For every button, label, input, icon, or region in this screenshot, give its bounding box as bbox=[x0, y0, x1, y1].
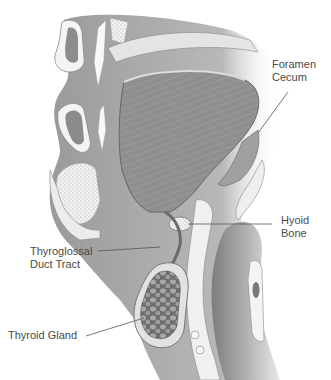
label-thyroglossal-line2: Duct Tract bbox=[30, 258, 92, 271]
label-foramen-cecum: Foramen Cecum bbox=[272, 58, 316, 84]
neck-section bbox=[187, 200, 281, 380]
upper-lip bbox=[55, 20, 85, 72]
label-foramen-cecum-line2: Cecum bbox=[272, 71, 316, 84]
label-thyroglossal-line1: Thyroglossal bbox=[30, 245, 92, 258]
label-hyoid-bone-line1: Hyoid bbox=[281, 214, 309, 227]
label-hyoid-bone: Hyoid Bone bbox=[281, 214, 309, 240]
label-thyroid-gland: Thyroid Gland bbox=[8, 329, 77, 342]
label-foramen-cecum-line1: Foramen bbox=[272, 58, 316, 71]
anatomy-illustration bbox=[0, 0, 331, 380]
label-hyoid-bone-line2: Bone bbox=[281, 227, 309, 240]
label-thyroid-gland-line1: Thyroid Gland bbox=[8, 329, 77, 342]
label-thyroglossal-duct-tract: Thyroglossal Duct Tract bbox=[30, 245, 92, 271]
